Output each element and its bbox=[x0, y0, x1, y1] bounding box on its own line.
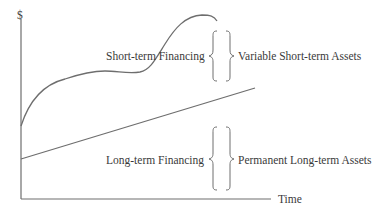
financing-strategy-diagram: $ Time Short-term Financing Variable Sho… bbox=[0, 0, 377, 213]
variable-assets-label: Variable Short-term Assets bbox=[238, 51, 361, 63]
permanent-assets-line bbox=[21, 88, 255, 159]
y-axis-label: $ bbox=[17, 10, 23, 22]
permanent-assets-brace bbox=[209, 127, 234, 190]
x-axis-label: Time bbox=[278, 194, 302, 206]
short-term-financing-label: Short-term Financing bbox=[106, 51, 205, 63]
long-term-financing-label: Long-term Financing bbox=[106, 155, 204, 167]
permanent-assets-label: Permanent Long-term Assets bbox=[238, 155, 372, 167]
diagram-canvas bbox=[0, 0, 377, 213]
variable-assets-brace bbox=[209, 31, 234, 81]
total-assets-curve bbox=[21, 15, 217, 126]
